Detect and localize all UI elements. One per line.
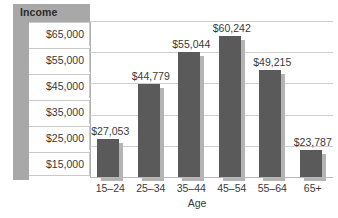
plot-area: $27,053$44,779$55,044$60,242$49,215$23,7… bbox=[90, 22, 333, 178]
bar-value-label: $60,242 bbox=[204, 22, 260, 34]
y-axis-color-band bbox=[13, 4, 29, 180]
y-axis-tick: $65,000 bbox=[29, 22, 90, 46]
y-axis-tick-label: $35,000 bbox=[46, 106, 84, 118]
y-axis-tick-label: $15,000 bbox=[46, 158, 84, 170]
y-axis-tick-label: $65,000 bbox=[46, 28, 84, 40]
y-axis-tick: $15,000 bbox=[29, 152, 90, 176]
bar-value-label: $27,053 bbox=[82, 125, 138, 137]
bar-value-label: $23,787 bbox=[285, 136, 338, 148]
y-axis-tick: $25,000 bbox=[29, 126, 90, 150]
bar[interactable] bbox=[138, 84, 164, 177]
bar-body bbox=[300, 150, 322, 177]
x-axis-title-label: Age bbox=[188, 197, 207, 209]
bar[interactable] bbox=[178, 52, 204, 177]
gridline bbox=[90, 52, 333, 53]
gridline bbox=[90, 115, 333, 116]
x-axis-baseline bbox=[90, 177, 333, 178]
income-by-age-bar-chart: Income $65,000$55,000$45,000$35,000$25,0… bbox=[0, 0, 338, 218]
bar-value-label: $55,044 bbox=[163, 38, 219, 50]
x-axis-title: Age bbox=[0, 197, 338, 209]
bar[interactable] bbox=[219, 36, 245, 177]
bar[interactable] bbox=[97, 139, 123, 177]
x-axis-tick-label: 65+ bbox=[288, 182, 338, 194]
bar-body bbox=[219, 36, 241, 177]
bar[interactable] bbox=[259, 70, 285, 177]
y-axis-tick-label: $45,000 bbox=[46, 80, 84, 92]
y-axis-tick-label: $55,000 bbox=[46, 54, 84, 66]
gridline bbox=[90, 83, 333, 84]
bar-value-label: $44,779 bbox=[123, 70, 179, 82]
y-axis-tick: $35,000 bbox=[29, 100, 90, 124]
y-axis-tick-label: $25,000 bbox=[46, 132, 84, 144]
legend-income-box: Income bbox=[13, 4, 90, 22]
bar[interactable] bbox=[300, 150, 326, 177]
y-axis-tick: $55,000 bbox=[29, 48, 90, 72]
bar-body bbox=[138, 84, 160, 177]
y-axis-tick: $45,000 bbox=[29, 74, 90, 98]
legend-income-label: Income bbox=[20, 6, 57, 18]
bar-value-label: $49,215 bbox=[244, 56, 300, 68]
bar-body bbox=[259, 70, 281, 177]
bar-body bbox=[97, 139, 119, 177]
bar-body bbox=[178, 52, 200, 177]
